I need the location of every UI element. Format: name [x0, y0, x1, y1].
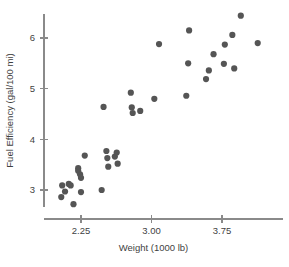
x-axis-title: Weight (1000 lb): [119, 242, 189, 253]
data-point: [78, 189, 84, 195]
data-point: [231, 65, 237, 71]
x-axis: 2.253.003.75: [44, 215, 283, 236]
data-point: [82, 152, 88, 158]
x-tick-label: 3.75: [213, 225, 232, 236]
data-point: [105, 164, 111, 170]
data-point: [103, 148, 109, 154]
data-point: [221, 61, 227, 67]
data-point: [68, 182, 74, 188]
data-point: [185, 60, 191, 66]
data-point: [59, 182, 65, 188]
data-point: [206, 67, 212, 73]
x-tick-label: 3.00: [142, 225, 161, 236]
data-point: [128, 90, 134, 96]
data-points-layer: [58, 13, 261, 208]
data-point: [210, 51, 216, 57]
data-point: [130, 110, 136, 116]
data-point: [129, 104, 135, 110]
data-point: [100, 104, 106, 110]
data-point: [78, 175, 84, 181]
data-point: [186, 27, 192, 33]
x-tick-label: 2.25: [72, 225, 91, 236]
data-point: [58, 194, 64, 200]
data-point: [70, 201, 76, 207]
data-point: [222, 41, 228, 47]
data-point: [62, 188, 68, 194]
y-tick-label: 6: [30, 32, 35, 43]
data-point: [229, 32, 235, 38]
data-point: [255, 40, 261, 46]
data-point: [203, 76, 209, 82]
y-tick-label: 5: [30, 83, 35, 94]
data-point: [183, 93, 189, 99]
data-point: [156, 41, 162, 47]
data-point: [115, 161, 121, 167]
y-axis-title: Fuel Efficiency (gal/100 mi): [4, 53, 15, 167]
data-point: [238, 13, 244, 19]
plot-canvas: 3456 2.253.003.75 Weight (1000 lb)Fuel E…: [0, 0, 289, 267]
data-point: [104, 155, 110, 161]
y-axis: 3456: [30, 14, 48, 207]
scatterplot-figure: 3456 2.253.003.75 Weight (1000 lb)Fuel E…: [0, 0, 289, 267]
y-tick-label: 4: [30, 134, 35, 145]
data-point: [114, 149, 120, 155]
data-point: [99, 187, 105, 193]
data-point: [151, 96, 157, 102]
y-tick-label: 3: [30, 184, 35, 195]
data-point: [137, 108, 143, 114]
